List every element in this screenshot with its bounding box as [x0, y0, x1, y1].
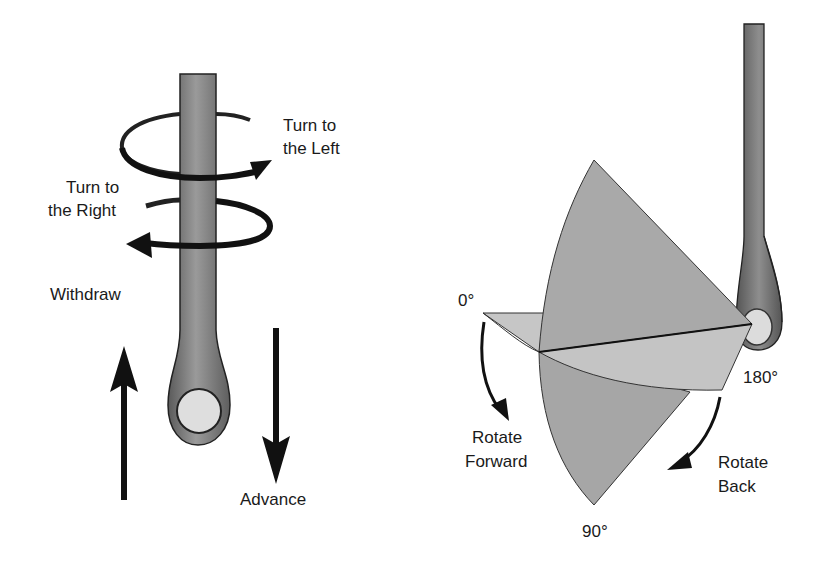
- scope-ring-icon: [177, 389, 221, 433]
- withdraw-arrow-icon: [110, 346, 138, 500]
- turn-left-label-line2: the Left: [283, 139, 340, 158]
- right-diagram: 0° 180° 90° Rotate Forward Rotate Back: [458, 24, 782, 541]
- rotate-back-label-line2: Back: [718, 477, 756, 496]
- diagram-svg: Turn to the Left Turn to the Right Withd…: [0, 0, 823, 585]
- turn-right-label-line2: the Right: [48, 201, 116, 220]
- left-diagram: Turn to the Left Turn to the Right Withd…: [48, 74, 340, 509]
- rotate-back-label-line1: Rotate: [718, 453, 768, 472]
- scope-shaft-icon: [736, 24, 782, 350]
- angle-180-label: 180°: [743, 368, 778, 387]
- rotate-forward-arrow-icon: [482, 322, 509, 421]
- angle-0-label: 0°: [458, 291, 474, 310]
- rotate-forward-label-line2: Forward: [465, 452, 527, 471]
- advance-label: Advance: [240, 490, 306, 509]
- turn-right-label-line1: Turn to: [66, 178, 119, 197]
- endoscope-manipulation-diagram: Turn to the Left Turn to the Right Withd…: [0, 0, 823, 585]
- turn-right-ring-back-icon: [146, 200, 180, 206]
- withdraw-label: Withdraw: [50, 285, 122, 304]
- scope-shaft-icon: [168, 74, 230, 445]
- advance-arrow-icon: [262, 328, 290, 484]
- angle-90-label: 90°: [582, 522, 608, 541]
- turn-left-label-line1: Turn to: [283, 116, 336, 135]
- rotate-forward-label-line1: Rotate: [472, 428, 522, 447]
